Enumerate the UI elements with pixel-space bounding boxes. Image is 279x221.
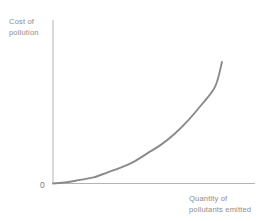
cost-of-pollution-curve (53, 62, 222, 184)
chart-container: Cost of pollution Quantity of pollutants… (0, 0, 279, 221)
y-axis-label: Cost of pollution (9, 17, 39, 38)
origin-tick-label: 0 (40, 180, 45, 190)
x-axis-label: Quantity of pollutants emitted (189, 194, 251, 215)
